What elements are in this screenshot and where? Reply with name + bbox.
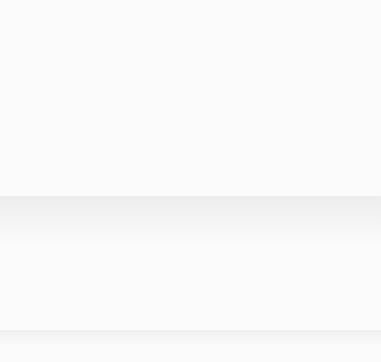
page-background bbox=[0, 0, 381, 362]
chart-figure: 00.20.40.60.81.01.21.41.61.82.02.2 19501… bbox=[0, 0, 381, 362]
